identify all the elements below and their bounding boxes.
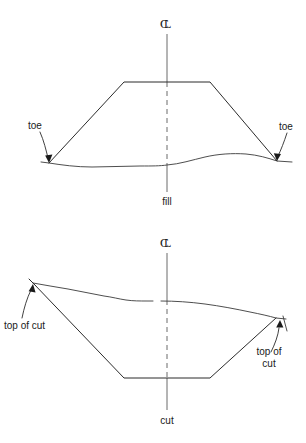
cut-ground-line-right — [161, 301, 286, 319]
cut-centerline-symbol: C L — [159, 235, 175, 251]
fill-embankment-outline — [49, 82, 277, 163]
fill-centerline-symbol-l: L — [164, 17, 171, 32]
toe-right-arrowhead — [274, 153, 281, 161]
toe-right-leader — [278, 133, 287, 156]
toe-left-arrowhead — [45, 155, 52, 163]
cut-caption: cut — [150, 415, 184, 426]
toe-left-label: toe — [28, 120, 42, 131]
fill-centerline-symbol: C L — [159, 16, 175, 32]
cut-right-reference-tick — [283, 316, 287, 331]
fill-caption: fill — [150, 196, 184, 207]
cut-ground-line-left — [33, 283, 153, 301]
top-of-cut-right-arrowhead — [276, 320, 283, 328]
diagram-canvas — [0, 0, 306, 443]
top-of-cut-right-label-line2: cut — [243, 358, 295, 369]
toe-right-label: toe — [279, 121, 293, 132]
cut-and-fill-diagram: C L toe toe fill C L top of cut top of c… — [0, 0, 306, 443]
cut-excavation-outline — [33, 283, 276, 378]
top-of-cut-right-label-line1: top of — [243, 346, 295, 357]
toe-left-leader — [40, 132, 48, 158]
top-of-cut-left-leader — [22, 290, 31, 318]
cut-centerline-symbol-l: L — [164, 236, 171, 251]
top-of-cut-left-label: top of cut — [4, 320, 45, 331]
